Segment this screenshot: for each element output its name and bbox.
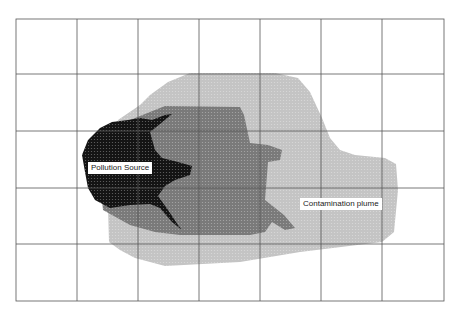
contamination-map: [0, 0, 458, 317]
pollution-source-label: Pollution Source: [88, 162, 152, 174]
contamination-plume-label: Contamination plume: [300, 198, 382, 210]
